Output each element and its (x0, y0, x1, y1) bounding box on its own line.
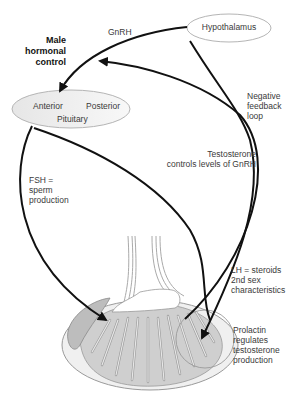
title-line-3: control (20, 57, 66, 68)
male-hormonal-control-diagram: Male hormonal control GnRH Hypothalamus … (0, 0, 294, 397)
testosterone-line-1: Testosterone (164, 149, 256, 159)
prolactin-line-3: testosterone (233, 345, 280, 355)
lh-line-3: characteristics (231, 285, 285, 295)
hypothalamus-label: Hypothalamus (186, 22, 272, 32)
fsh-line-2: sperm (29, 185, 69, 195)
prolactin-line-2: regulates (233, 335, 280, 345)
fsh-line-3: production (29, 195, 69, 205)
diagram-title: Male hormonal control (20, 35, 66, 68)
lh-line-1: LH = steroids (231, 265, 285, 275)
negative-feedback-line-1: Negative (247, 91, 282, 101)
title-line-1: Male (20, 35, 66, 46)
pituitary-anterior-label: Anterior (33, 101, 63, 111)
prolactin-line-4: production (233, 355, 280, 365)
negative-feedback-label: Negative feedback loop (247, 91, 282, 121)
pituitary-posterior-label: Posterior (86, 101, 120, 111)
fsh-line-1: FSH = (29, 175, 69, 185)
negative-feedback-line-3: loop (247, 111, 282, 121)
gnrh-label: GnRH (108, 27, 132, 37)
lh-label: LH = steroids 2nd sex characteristics (231, 265, 285, 295)
title-line-2: hormonal (20, 46, 66, 57)
prolactin-line-1: Prolactin (233, 325, 280, 335)
negative-feedback-line-2: feedback (247, 101, 282, 111)
pituitary-label: Pituitary (57, 114, 88, 124)
prolactin-label: Prolactin regulates testosterone product… (233, 325, 280, 365)
testosterone-label: Testosterone controls levels of GnRH (164, 149, 256, 169)
testosterone-line-2: controls levels of GnRH (164, 159, 256, 169)
fsh-arrow (20, 126, 106, 320)
fsh-label: FSH = sperm production (29, 175, 69, 205)
lh-line-2: 2nd sex (231, 275, 285, 285)
testis-illustration (62, 236, 238, 390)
